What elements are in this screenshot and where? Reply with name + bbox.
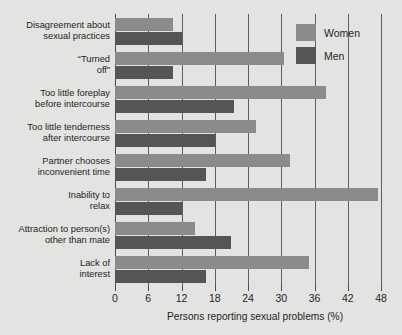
- bar-men: [115, 202, 182, 215]
- x-tick-mark: [381, 286, 382, 291]
- x-tick-mark: [148, 286, 149, 291]
- bar-group: [115, 222, 381, 249]
- category-label: Partner chooses inconvenient time: [0, 156, 110, 178]
- category-label: “Turned off”: [0, 54, 110, 76]
- legend-label: Men: [324, 50, 344, 62]
- bar-men: [115, 270, 206, 283]
- bar-chart: Disagreement about sexual practices“Turn…: [0, 0, 402, 335]
- legend-swatch-icon: [296, 24, 316, 41]
- bar-men: [115, 134, 215, 147]
- x-tick-mark: [348, 286, 349, 291]
- category-label: Disagreement about sexual practices: [0, 20, 110, 42]
- category-label: Inability to relax: [0, 190, 110, 212]
- x-tick-mark: [115, 286, 116, 291]
- x-tick-label: 0: [112, 292, 118, 304]
- x-tick-label: 24: [242, 292, 254, 304]
- category-label: Attraction to person(s) other than mate: [0, 224, 110, 246]
- bar-men: [115, 236, 231, 249]
- bar-women: [115, 256, 309, 269]
- legend-label: Women: [324, 27, 360, 39]
- bar-group: [115, 86, 381, 113]
- bar-women: [115, 52, 284, 65]
- x-tick-mark: [215, 286, 216, 291]
- category-label: Lack of interest: [0, 258, 110, 280]
- bar-women: [115, 154, 290, 167]
- category-axis-labels: Disagreement about sexual practices“Turn…: [0, 14, 110, 286]
- x-tick-mark: [281, 286, 282, 291]
- bar-men: [115, 66, 173, 79]
- x-tick-label: 12: [176, 292, 188, 304]
- legend-swatch-icon: [296, 47, 316, 64]
- x-tick-label: 6: [145, 292, 151, 304]
- legend-item-men[interactable]: Men: [296, 45, 392, 66]
- x-tick-mark: [315, 286, 316, 291]
- bar-women: [115, 222, 195, 235]
- x-tick-mark: [182, 286, 183, 291]
- x-tick-label: 18: [209, 292, 221, 304]
- x-axis: 0612182430364248: [115, 286, 381, 306]
- category-label: Too little foreplay before intercourse: [0, 88, 110, 110]
- bar-group: [115, 120, 381, 147]
- bar-women: [115, 188, 378, 201]
- x-tick-label: 48: [375, 292, 387, 304]
- bar-women: [115, 120, 256, 133]
- category-label: Too little tenderness after intercourse: [0, 122, 110, 144]
- x-tick-label: 36: [309, 292, 321, 304]
- chart-legend: WomenMen: [296, 22, 392, 68]
- bar-men: [115, 32, 182, 45]
- bar-men: [115, 100, 234, 113]
- x-axis-title: Persons reporting sexual problems (%): [115, 311, 395, 322]
- bar-women: [115, 86, 326, 99]
- bar-group: [115, 188, 381, 215]
- x-tick-label: 30: [275, 292, 287, 304]
- legend-item-women[interactable]: Women: [296, 22, 392, 43]
- bar-group: [115, 256, 381, 283]
- bar-women: [115, 18, 173, 31]
- bar-men: [115, 168, 206, 181]
- x-tick-label: 42: [342, 292, 354, 304]
- x-tick-mark: [248, 286, 249, 291]
- bar-group: [115, 154, 381, 181]
